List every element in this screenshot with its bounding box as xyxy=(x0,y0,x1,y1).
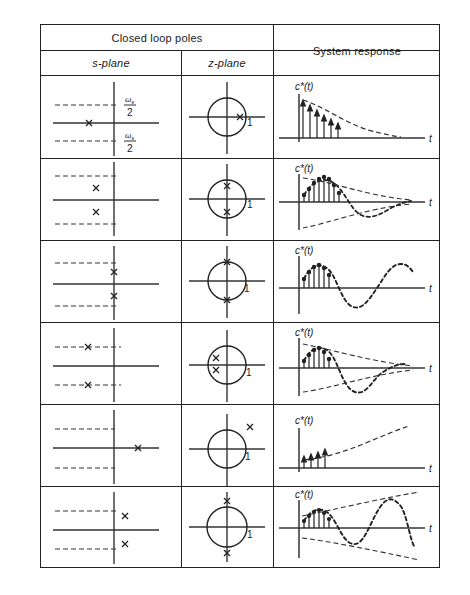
row-2-response-cell: c*(t) t xyxy=(273,158,441,240)
row-5-z-plane-cell: 1 xyxy=(181,404,273,486)
row-1-z-plane-cell: 1 xyxy=(181,76,273,158)
row-2-response-curve xyxy=(304,180,411,217)
row-1-response-plot: c*(t) t xyxy=(273,76,441,158)
row-1-z-plane-diagram: 1 xyxy=(181,76,273,158)
row-3-response-curve xyxy=(304,264,413,308)
row-1-s-plane-cell: ωs 2 ωs 2 xyxy=(41,76,181,158)
row-4-unit-radius-label: 1 xyxy=(246,367,252,378)
header-z-plane-label: z-plane xyxy=(208,57,245,69)
row-4-envelope-lower xyxy=(303,370,413,392)
row-1-response-cell: c*(t) t xyxy=(273,76,441,158)
row-4-ct-label: c*(t) xyxy=(295,327,313,338)
divider-header-response xyxy=(273,25,274,51)
row-6-s-plane-cell xyxy=(41,486,181,567)
row-6-unit-radius-label: 1 xyxy=(247,529,253,540)
row-6-response-plot: c*(t) t xyxy=(273,486,441,567)
row-2-z-plane-cell: 1 xyxy=(181,158,273,240)
svg-text:ωs: ωs xyxy=(125,131,134,141)
row-2-unit-radius-label: 1 xyxy=(247,199,253,210)
row-6-t-label: t xyxy=(429,523,433,534)
pole-response-table: Closed loop poles System response s-plan… xyxy=(40,24,440,568)
row-1-omega-upper-label: ωs xyxy=(125,95,134,105)
row-4-s-plane-diagram xyxy=(41,322,181,404)
row-2-z-plane-diagram: 1 xyxy=(181,158,273,240)
row-2-ct-label: c*(t) xyxy=(295,163,313,174)
row-3-t-label: t xyxy=(429,283,433,294)
header-s-plane: s-plane xyxy=(41,51,181,75)
table-header-sub: s-plane z-plane xyxy=(41,51,439,76)
header-z-plane: z-plane xyxy=(181,51,273,75)
row-3-s-plane-cell xyxy=(41,240,181,322)
row-2-t-label: t xyxy=(429,197,433,208)
svg-text:2: 2 xyxy=(127,107,133,118)
row-6-s-plane-diagram xyxy=(41,486,181,567)
figure-page: Closed loop poles System response s-plan… xyxy=(0,0,470,595)
svg-text:2: 2 xyxy=(127,143,133,154)
row-4-z-plane-cell: 1 xyxy=(181,322,273,404)
row-6-envelope-upper xyxy=(302,492,419,516)
row-5-response-cell: c*(t) t xyxy=(273,404,441,486)
row-3-unit-radius-label: 1 xyxy=(244,283,250,294)
row-3-z-plane-cell: 1 xyxy=(181,240,273,322)
row-5-s-plane-cell xyxy=(41,404,181,486)
row-3-z-plane-diagram: 1 xyxy=(181,240,273,322)
row-1-s-plane-diagram: ωs 2 ωs 2 xyxy=(41,76,181,158)
row-2-s-plane-diagram xyxy=(41,158,181,240)
row-5-t-label: t xyxy=(429,463,433,474)
row-1-omega-lower-label: ωs xyxy=(125,131,134,141)
row-5-ct-label: c*(t) xyxy=(295,415,313,426)
row-2-response-plot: c*(t) t xyxy=(273,158,441,240)
row-1-ct-label: c*(t) xyxy=(295,81,313,92)
row-3-s-plane-diagram xyxy=(41,240,181,322)
row-3-response-plot: c*(t) t xyxy=(273,240,441,322)
row-1-envelope xyxy=(303,100,401,137)
row-5-response-plot: c*(t) t xyxy=(273,404,441,486)
row-5-z-plane-diagram: 1 xyxy=(181,404,273,486)
row-6-response-cell: c*(t) t xyxy=(273,486,441,567)
row-5-s-plane-diagram xyxy=(41,404,181,486)
row-6-z-plane-diagram: 1 xyxy=(181,486,273,567)
row-6-ct-label: c*(t) xyxy=(295,489,313,500)
row-1-samples xyxy=(301,100,341,138)
row-4-t-label: t xyxy=(429,363,433,374)
row-1-t-label: t xyxy=(429,133,433,144)
table-header-top: Closed loop poles System response xyxy=(41,25,439,51)
row-3-response-cell: c*(t) t xyxy=(273,240,441,322)
row-4-response-cell: c*(t) t xyxy=(273,322,441,404)
header-s-plane-label: s-plane xyxy=(92,57,129,69)
row-5-unit-radius-label: 1 xyxy=(245,451,251,462)
row-4-z-plane-diagram: 1 xyxy=(181,322,273,404)
row-2-s-plane-cell xyxy=(41,158,181,240)
row-1-unit-radius-label: 1 xyxy=(247,117,253,128)
row-2-envelope-lower xyxy=(303,204,411,228)
row-4-response-plot: c*(t) t xyxy=(273,322,441,404)
header-closed-loop-poles: Closed loop poles xyxy=(41,25,273,50)
row-6-z-plane-cell: 1 xyxy=(181,486,273,567)
svg-text:ωs: ωs xyxy=(125,95,134,105)
row-4-s-plane-cell xyxy=(41,322,181,404)
row-3-ct-label: c*(t) xyxy=(295,245,313,256)
